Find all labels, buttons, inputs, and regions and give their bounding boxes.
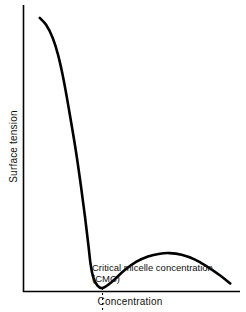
cmc-annotation: Critical micelle concentration (CMC) (92, 263, 213, 284)
y-axis-label: Surface tension (8, 99, 19, 195)
cmc-annotation-line2: (CMC) (92, 274, 213, 285)
surface-tension-chart: Surface tension Concentration Critical m… (0, 0, 246, 312)
cmc-annotation-line1: Critical micelle concentration (92, 262, 213, 273)
x-axis-label: Concentration (70, 296, 190, 307)
data-curve-surface-tension (40, 18, 231, 288)
